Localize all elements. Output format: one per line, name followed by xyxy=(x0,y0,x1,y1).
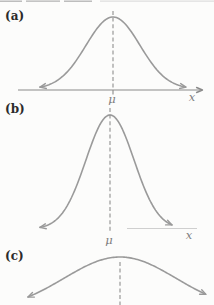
textbook-figure-page: (a) μ x (b) μ x (c) xyxy=(0,0,214,305)
mu-label-a: μ xyxy=(108,92,115,106)
panel-label-a: (a) xyxy=(5,9,24,23)
panel-label-c: (c) xyxy=(5,249,24,263)
mu-label-b: μ xyxy=(105,233,112,247)
normal-curve-b xyxy=(40,115,172,227)
normal-curve-c xyxy=(28,257,205,297)
panel-label-b: (b) xyxy=(5,102,25,116)
figure-svg: (a) μ x (b) μ x (c) xyxy=(0,0,214,305)
x-axis-label-a: x xyxy=(189,90,196,104)
x-axis-label-b: x xyxy=(186,228,193,242)
